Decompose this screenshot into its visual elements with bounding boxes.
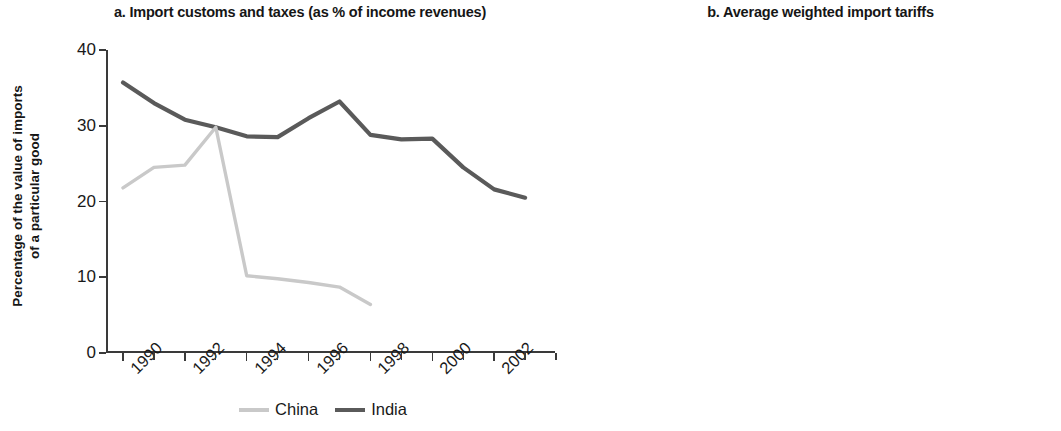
legend-label: China xyxy=(275,400,318,419)
panel-a-x-tick xyxy=(184,353,185,361)
legend-item-china: China xyxy=(239,400,318,419)
panel-a-x-tick xyxy=(246,353,247,361)
panel-a-y-tick-label: 0 xyxy=(87,343,96,363)
panel-a-y-tick xyxy=(99,201,106,203)
panel-a-y-tick xyxy=(99,276,106,278)
panel-a-legend: ChinaIndia xyxy=(0,400,618,419)
panel-a-y-tick-label: 40 xyxy=(77,40,96,60)
panel-a-x-tick xyxy=(277,353,278,360)
panel-a-y-tick xyxy=(99,49,106,51)
panel-a-line-chart: a. Import customs and taxes (as % of inc… xyxy=(0,0,580,431)
panel-a-line-china xyxy=(123,127,370,304)
panel-a-title: a. Import customs and taxes (as % of inc… xyxy=(0,4,590,20)
panel-a-line-india xyxy=(123,83,525,198)
panel-a-y-tick xyxy=(99,125,106,127)
panel-a-x-tick xyxy=(370,353,371,361)
panel-a-x-tick xyxy=(432,353,433,361)
legend-line-icon xyxy=(239,408,269,412)
panel-a-y-axis-label: Percentage of the value of imports of a … xyxy=(10,40,44,352)
figure: a. Import customs and taxes (as % of inc… xyxy=(0,0,1061,431)
panel-a-y-tick-label: 10 xyxy=(77,267,96,287)
panel-a-y-axis xyxy=(106,50,108,353)
panel-a-x-tick xyxy=(122,353,123,361)
panel-a-series-svg xyxy=(106,50,555,353)
panel-a-x-tick xyxy=(339,353,340,360)
panel-a-x-tick xyxy=(555,353,556,360)
panel-a-x-tick xyxy=(153,353,154,360)
panel-a-x-tick xyxy=(463,353,464,360)
panel-a-x-tick xyxy=(524,353,525,360)
panel-b-bar-chart: b. Average weighted import tariffs Perce… xyxy=(580,0,1061,431)
panel-b-title: b. Average weighted import tariffs xyxy=(580,4,1061,20)
panel-a-y-tick-label: 30 xyxy=(77,116,96,136)
panel-a-y-tick xyxy=(99,352,106,354)
panel-a-x-tick xyxy=(401,353,402,360)
panel-a-x-tick xyxy=(215,353,216,360)
legend-line-icon xyxy=(335,408,365,412)
panel-a-x-tick xyxy=(493,353,494,361)
legend-label: India xyxy=(371,400,407,419)
panel-a-y-tick-label: 20 xyxy=(77,192,96,212)
legend-item-india: India xyxy=(335,400,407,419)
panel-a-plot-area: 0102030401990199219941996199820002002 xyxy=(106,50,555,353)
panel-a-x-tick xyxy=(308,353,309,361)
